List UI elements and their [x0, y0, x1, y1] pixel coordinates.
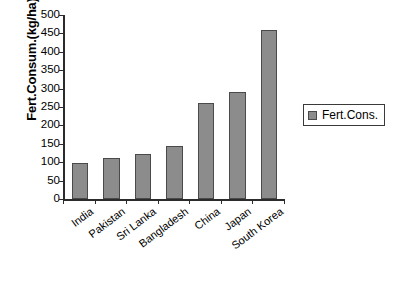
- bar: [103, 158, 119, 199]
- y-tick-mark: [59, 181, 63, 182]
- y-tick-label: 450: [41, 28, 60, 40]
- x-category-label: China: [192, 205, 222, 232]
- y-tick-mark: [59, 52, 63, 53]
- y-tick-label: 400: [41, 46, 60, 58]
- legend-swatch-icon: [308, 111, 317, 120]
- y-tick-mark: [59, 144, 63, 145]
- y-tick-mark: [59, 107, 63, 108]
- bar-chart: Fert.Consum.(kg/ha) 05010015020025030035…: [0, 0, 413, 289]
- legend-label: Fert.Cons.: [322, 108, 378, 122]
- x-axis-category-labels: IndiaPakistanSri LankaBangladeshChinaJap…: [63, 199, 293, 287]
- bar: [198, 103, 214, 199]
- bar: [72, 163, 88, 199]
- y-tick-label: 250: [41, 101, 60, 113]
- bar: [261, 30, 277, 199]
- bar: [229, 92, 245, 199]
- y-tick-label: 300: [41, 83, 60, 95]
- y-tick-mark: [59, 162, 63, 163]
- y-tick-label: 350: [41, 64, 60, 76]
- plot-area: [64, 15, 285, 199]
- y-tick-mark: [59, 89, 63, 90]
- y-tick-label: 100: [41, 156, 60, 168]
- chart-legend: Fert.Cons.: [303, 104, 385, 126]
- y-tick-label: 500: [41, 9, 60, 21]
- y-tick-mark: [59, 125, 63, 126]
- bar: [135, 154, 151, 199]
- y-tick-mark: [59, 15, 63, 16]
- y-tick-label: 200: [41, 120, 60, 132]
- y-tick-mark: [59, 33, 63, 34]
- y-tick-mark: [59, 70, 63, 71]
- bar: [166, 146, 182, 199]
- y-axis-tick-labels: 050100150200250300350400450500: [30, 15, 60, 199]
- y-tick-label: 150: [41, 138, 60, 150]
